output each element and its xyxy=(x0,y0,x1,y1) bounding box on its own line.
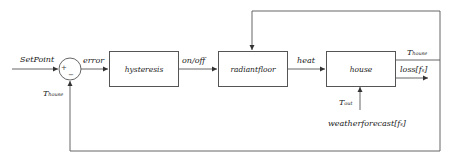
hysteresis-label: hysteresis xyxy=(110,52,178,86)
on-off-label: on/off xyxy=(182,57,205,65)
t-house-output-label: Thouse xyxy=(407,49,427,57)
hysteresis-block: hysteresis xyxy=(109,51,179,87)
loss-label: loss[fs] xyxy=(400,66,427,74)
t-out-label: Tout xyxy=(339,99,353,107)
error-label: error xyxy=(83,57,104,65)
radiant-floor-label: radiantfloor xyxy=(219,52,287,86)
plus-sign: + xyxy=(61,65,67,72)
weather-forecast-label: weatherforecast[fs] xyxy=(328,120,406,128)
house-block: house xyxy=(326,51,396,87)
house-label: house xyxy=(327,52,395,86)
setpoint-label: SetPoint xyxy=(20,56,54,64)
heat-label: heat xyxy=(297,57,315,65)
minus-sign: − xyxy=(68,72,74,79)
t-house-feedback-label: Thouse xyxy=(43,90,63,98)
radiant-floor-block: radiantfloor xyxy=(218,51,288,87)
